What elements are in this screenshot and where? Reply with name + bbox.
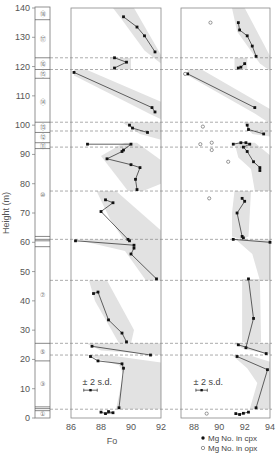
data-point-filled <box>73 71 76 74</box>
data-point-filled <box>255 406 258 409</box>
data-point-filled <box>241 197 244 200</box>
data-point-filled <box>89 355 92 358</box>
y-tick-label: 40 <box>20 296 30 306</box>
data-point-filled <box>246 34 249 37</box>
data-point-filled <box>255 55 258 58</box>
x-tick-label: 86 <box>66 422 76 432</box>
data-point-filled <box>243 200 246 203</box>
data-point-filled <box>265 352 268 355</box>
data-point-filled <box>133 247 136 250</box>
data-point-open <box>205 412 208 415</box>
data-point-filled <box>122 15 125 18</box>
trend-band <box>86 343 161 355</box>
data-point-filled <box>130 143 133 146</box>
layer-number: ⑦ <box>40 292 45 298</box>
data-point-filled <box>92 292 95 295</box>
data-point-open <box>210 141 213 144</box>
y-tick-label: 30 <box>20 325 30 335</box>
x-tick-label: 88 <box>96 422 106 432</box>
data-point-filled <box>113 67 116 70</box>
y-tick-label: 70 <box>20 208 30 218</box>
data-point-filled <box>238 29 241 32</box>
data-point-filled <box>125 61 128 64</box>
x-tick-label: 94 <box>265 422 275 432</box>
layer-number: ⑫ <box>40 133 46 141</box>
x-tick-label: 92 <box>240 422 250 432</box>
series-line <box>101 412 113 414</box>
data-point-filled <box>154 51 157 54</box>
legend-label: Mg No. in cpx <box>208 434 257 443</box>
legend-label: Mg No. in opx <box>208 444 257 453</box>
trend-band <box>74 70 161 120</box>
y-tick-label: 130 <box>15 32 30 42</box>
layer-number: ⑬ <box>40 123 46 131</box>
data-point-filled <box>232 143 235 146</box>
data-point-filled <box>239 66 242 69</box>
y-tick-label: 80 <box>20 179 30 189</box>
y-tick-label: 60 <box>20 237 30 247</box>
data-point-filled <box>236 212 239 215</box>
data-point-filled <box>146 131 149 134</box>
data-point-filled <box>151 106 154 109</box>
data-point-filled <box>242 412 245 415</box>
data-point-filled <box>246 150 249 153</box>
data-point-filled <box>239 141 242 144</box>
data-point-filled <box>258 169 261 172</box>
layer-number: ⑰ <box>40 35 46 43</box>
data-point-filled <box>232 238 235 241</box>
data-point-filled <box>266 368 269 371</box>
data-point-filled <box>149 354 152 357</box>
data-point-filled <box>262 133 265 136</box>
y-tick-label: 110 <box>16 91 30 101</box>
y-tick-label: 90 <box>20 149 30 159</box>
data-point-filled <box>121 362 124 365</box>
data-point-filled <box>130 253 133 256</box>
layer-number: ⑩ <box>40 192 45 198</box>
trend-bands <box>74 8 273 409</box>
y-tick-label: 20 <box>20 354 30 364</box>
data-point-filled <box>155 277 158 280</box>
data-point-filled <box>237 21 240 24</box>
layer-number: ① <box>40 411 45 417</box>
x-tick-label: 92 <box>156 422 166 432</box>
x-tick-label: 90 <box>214 422 224 432</box>
chart: ⑱⑰⑯⑮⑭⑬⑫⑪⑩⑦⑤③① 01020304050607080901001101… <box>0 0 276 456</box>
data-point-filled <box>237 343 240 346</box>
data-point-filled <box>133 244 136 247</box>
y-axis-title: Height (m) <box>1 192 11 234</box>
data-point-open <box>199 143 202 146</box>
trend-band <box>76 239 162 280</box>
data-point-filled <box>237 67 240 70</box>
data-point-open <box>227 160 230 163</box>
data-point-filled <box>251 45 254 48</box>
data-point-filled <box>125 340 128 343</box>
legend-filled-marker-icon <box>201 436 204 439</box>
y-tick-label: 0 <box>25 413 30 423</box>
data-point-filled <box>128 239 131 242</box>
x-tick-label: 88 <box>189 422 199 432</box>
data-point-filled <box>112 201 115 204</box>
data-point-open <box>209 21 212 24</box>
data-point-filled <box>118 406 121 409</box>
layer-number: ⑪ <box>40 142 46 150</box>
x-axis-title: Fo <box>107 436 118 446</box>
layer-number: ⑤ <box>40 349 45 355</box>
data-point-filled <box>252 317 255 320</box>
data-point-filled <box>134 178 137 181</box>
data-point-filled <box>112 411 115 414</box>
trend-band <box>89 280 134 343</box>
data-point-filled <box>247 128 250 131</box>
data-point-filled <box>234 412 237 415</box>
trend-band <box>236 239 273 280</box>
data-point-filled <box>100 210 103 213</box>
y-tick-label: 120 <box>15 62 30 72</box>
trend-band <box>242 279 261 345</box>
trend-band <box>101 143 161 191</box>
y-tick-label: 50 <box>20 267 30 277</box>
data-point-open <box>184 72 187 75</box>
trend-band <box>113 8 161 64</box>
data-point-open <box>208 197 211 200</box>
data-point-filled <box>107 318 110 321</box>
data-point-filled <box>122 367 125 370</box>
series-line <box>188 74 255 108</box>
